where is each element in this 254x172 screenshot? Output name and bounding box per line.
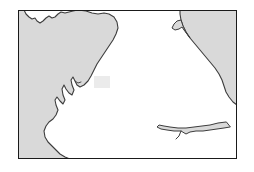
- map-screenshot: [0, 0, 254, 172]
- coastline-map-svg: [18, 10, 237, 159]
- area-highlight-box: [94, 76, 110, 88]
- map-figure: [18, 10, 237, 159]
